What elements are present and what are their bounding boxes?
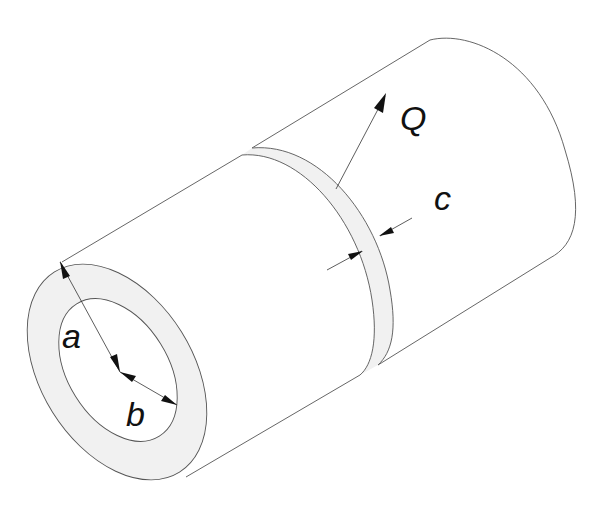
label-q: Q [400,99,426,137]
heat-flow-arrow [336,93,386,189]
bottom-edge-line [186,375,360,477]
heat-band [242,148,393,375]
band-left-edge [242,155,374,375]
bottom-edge-line-back [378,258,550,365]
label-b: b [126,395,145,433]
back-end-outline [430,38,576,258]
label-a: a [62,317,81,355]
top-edge-line [62,155,242,262]
front-annular-face [0,232,244,512]
arrowhead-q [374,93,386,113]
cylinder-diagram: a b c Q [0,0,590,512]
label-c: c [434,179,451,217]
arrowhead-c-right [379,227,394,236]
